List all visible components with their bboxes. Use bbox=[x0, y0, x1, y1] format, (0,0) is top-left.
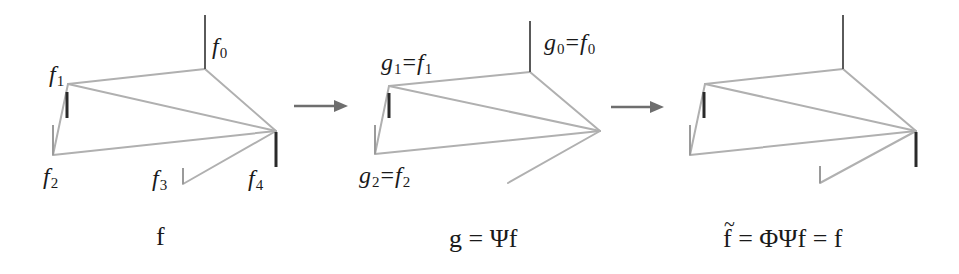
edge-f1-f0 bbox=[68, 69, 205, 84]
edge-t0-t4 bbox=[843, 69, 916, 131]
edge-t2-t4 bbox=[690, 131, 916, 155]
label-g1-eq-f1: g1=f1 bbox=[381, 50, 432, 77]
edge-g0-apex bbox=[530, 72, 600, 131]
f-tilde-symbol: ~f bbox=[723, 226, 732, 252]
panel-ftilde-graph bbox=[690, 15, 916, 183]
label-f0: f0 bbox=[212, 34, 227, 61]
label-f2: f2 bbox=[43, 164, 58, 191]
edge-f0-f4 bbox=[205, 69, 276, 131]
edge-t1-t4 bbox=[705, 84, 916, 131]
label-f4: f4 bbox=[248, 166, 263, 193]
caption-g: g = Ψf bbox=[449, 226, 518, 252]
arrow-g-to-ftilde bbox=[611, 101, 664, 113]
label-f3: f3 bbox=[152, 166, 167, 193]
panel-f-graph bbox=[53, 15, 276, 184]
label-g2-eq-f2: g2=f2 bbox=[359, 163, 410, 190]
edge-g1-g2 bbox=[375, 86, 389, 154]
edge-g1-apex bbox=[389, 86, 600, 131]
edge-f1-f4 bbox=[68, 84, 276, 131]
edge-t1-t0 bbox=[705, 69, 843, 84]
label-f1: f1 bbox=[49, 62, 64, 89]
edge-f2-f4 bbox=[53, 131, 276, 155]
caption-f: f bbox=[156, 224, 165, 250]
caption-ftilde: ~f = ΦΨf = f bbox=[723, 226, 843, 252]
arrow-f-to-g bbox=[294, 100, 348, 112]
label-g0-eq-f0: g0=f0 bbox=[544, 30, 595, 57]
